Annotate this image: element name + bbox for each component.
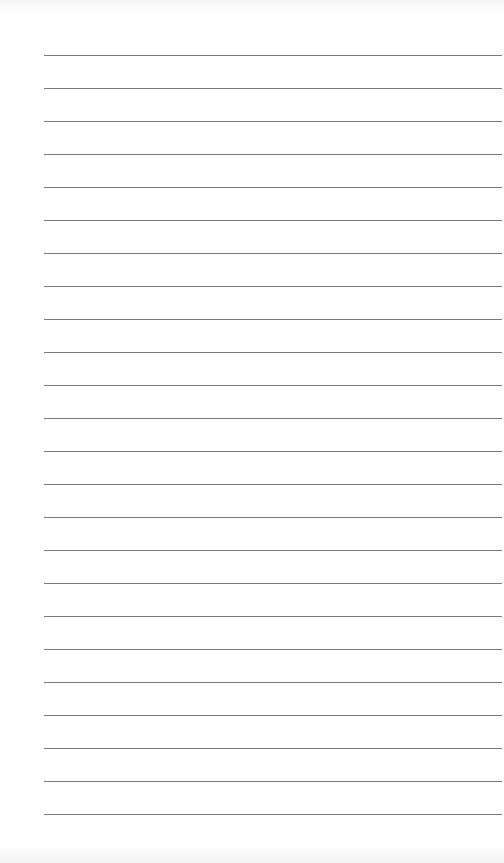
ruled-line — [44, 55, 502, 56]
ruled-line — [44, 253, 502, 254]
ruled-line — [44, 286, 502, 287]
ruled-line — [44, 418, 502, 419]
ruled-line — [44, 781, 502, 782]
ruled-line — [44, 484, 502, 485]
ruled-line — [44, 187, 502, 188]
ruled-line — [44, 649, 502, 650]
ruled-line — [44, 385, 502, 386]
ruled-line — [44, 220, 502, 221]
ruled-line — [44, 88, 502, 89]
ruled-line — [44, 451, 502, 452]
ruled-line — [44, 517, 502, 518]
ruled-line — [44, 550, 502, 551]
ruled-line — [44, 121, 502, 122]
ruled-line — [44, 682, 502, 683]
ruled-line — [44, 715, 502, 716]
ruled-line — [44, 814, 502, 815]
ruled-line — [44, 352, 502, 353]
ruled-line — [44, 583, 502, 584]
ruled-line — [44, 748, 502, 749]
ruled-line — [44, 154, 502, 155]
lined-paper-sheet — [0, 0, 504, 863]
ruled-line — [44, 319, 502, 320]
ruled-line — [44, 616, 502, 617]
